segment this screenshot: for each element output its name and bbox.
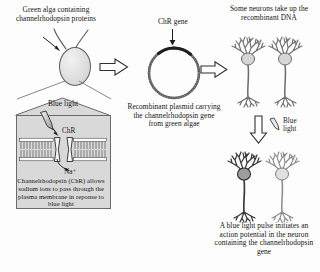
- recombinant-plasmid-ring: [146, 45, 202, 101]
- arrow-blue-light-down: [249, 115, 268, 144]
- neurons-transfected: [226, 33, 310, 112]
- membrane-detail-caption: Channelrhodopsin (ChR) allows sodium ion…: [17, 177, 105, 208]
- neuron-uptake-caption: Some neurons take up the recombinant DNA: [222, 5, 316, 22]
- chr-channel-label: ChR: [62, 127, 75, 135]
- blue-light-label-neuron: Blue light: [283, 117, 317, 134]
- neurons-action-potential: [218, 148, 310, 224]
- alga-caption: Green alga containing channelrhodopsin p…: [4, 6, 108, 23]
- blue-light-label-membrane: Blue light: [20, 100, 106, 109]
- blue-light-beam-icon-neuron: [268, 117, 282, 133]
- arrow-plasmid-to-neuron: [200, 60, 228, 79]
- blue-light-label-line2: light: [283, 125, 296, 133]
- sodium-ion-label: Na⁺: [64, 167, 76, 176]
- neuron-activated: [228, 152, 261, 222]
- chr-gene-label: ChR gene: [138, 18, 208, 27]
- plasmid-caption: Recombinant plasmid carrying the channel…: [127, 103, 221, 129]
- blue-light-label-line1: Blue: [283, 117, 297, 125]
- arrow-alga-to-plasmid: [99, 57, 129, 77]
- neuron-resting: [266, 152, 299, 222]
- alga-flagellum-left: [53, 28, 67, 50]
- optogenetics-diagram: Green alga containing channelrhodopsin p…: [0, 0, 320, 272]
- blue-light-beam-icon: [37, 110, 61, 137]
- action-potential-caption: A blue light pulse initiates an action p…: [210, 222, 318, 257]
- chr-gene-pointer-arrow: [168, 29, 177, 46]
